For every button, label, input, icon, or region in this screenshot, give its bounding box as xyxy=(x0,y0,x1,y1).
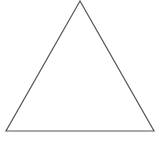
triangle-shape xyxy=(6,1,154,131)
diagram-canvas xyxy=(0,0,164,146)
watermark-text xyxy=(112,139,162,146)
